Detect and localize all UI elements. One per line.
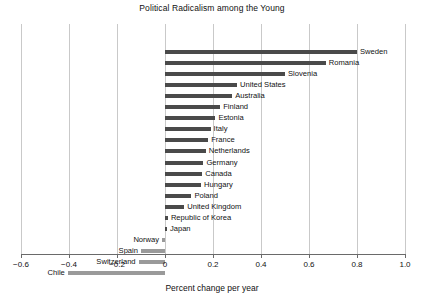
bar [165,216,168,220]
bar [165,61,326,65]
bar [165,138,208,142]
x-axis-tick-label: 0.8 [337,260,377,269]
x-axis-tick [69,254,70,258]
bar [165,183,201,187]
x-axis-tick-label: −0.6 [1,260,41,269]
x-axis-tick-label: 0.6 [289,260,329,269]
bar [165,116,215,120]
bar [165,83,237,87]
bar [165,172,202,176]
bar [165,194,191,198]
bar [165,227,167,231]
bar [165,127,211,131]
gridline [21,24,22,254]
x-axis-tick [357,254,358,258]
x-axis-label: Percent change per year [0,283,424,293]
bar [141,249,165,253]
bar [165,94,232,98]
x-axis-tick [405,254,406,258]
bar [165,205,184,209]
bar [165,161,203,165]
x-axis-tick-label: −0.4 [49,260,89,269]
bar [68,271,165,275]
gridline [309,24,310,254]
x-axis-tick [21,254,22,258]
x-axis-tick [261,254,262,258]
gridline [261,24,262,254]
bar-label: Sweden [360,46,387,58]
bar [165,105,220,109]
x-axis-tick-label: 0.2 [193,260,233,269]
bar-label: Slovenia [288,68,317,80]
x-axis-tick [117,254,118,258]
bar [165,50,357,54]
x-axis-tick-label: 0.4 [241,260,281,269]
gridline [405,24,406,254]
x-axis-tick [213,254,214,258]
gridline [117,24,118,254]
bar [162,238,165,242]
x-axis-tick-label: 0 [145,260,185,269]
bar [165,149,206,153]
chart-title: Political Radicalism among the Young [0,3,424,13]
x-axis-tick-label: 1.0 [385,260,424,269]
bar-label: Romania [329,57,359,69]
x-axis-tick [165,254,166,258]
x-axis-tick [309,254,310,258]
bar-chart: Political Radicalism among the Young Swe… [0,0,424,308]
bar-label: Japan [170,223,191,235]
bar [165,72,285,76]
plot-area: SwedenRomaniaSloveniaUnited StatesAustra… [21,24,405,254]
x-axis-tick-label: −0.2 [97,260,137,269]
gridline [69,24,70,254]
